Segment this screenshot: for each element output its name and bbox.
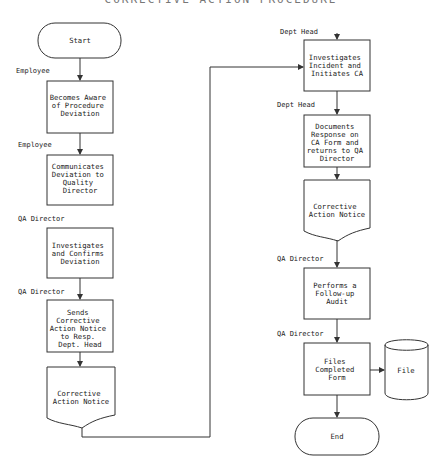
end-label: End — [331, 432, 344, 441]
process-box-investigates-incident: Investigates Incident and Initiates CA — [304, 40, 370, 91]
process-box-communicates: Communicates Deviation to Quality Direct… — [47, 155, 113, 205]
process-box-files-form: Files Completed Form — [304, 343, 370, 395]
role-label: QA Director — [277, 330, 323, 338]
file-label: File — [397, 366, 414, 375]
role-label: QA Director — [18, 288, 64, 296]
role-label: QA Director — [18, 215, 64, 223]
box-text: Corrective Action Notice — [309, 202, 365, 219]
process-box-investigates-confirms: Investigates and Confirms Deviation — [47, 228, 113, 278]
process-box-becomes-aware: Becomes Aware of Procedure Deviation — [47, 81, 113, 133]
process-box-follow-up-audit: Performs a Follow-up Audit — [304, 268, 370, 319]
box-text: Investigates Incident and Initiates CA — [309, 53, 365, 78]
document-corrective-action-notice-right: Corrective Action Notice — [304, 180, 370, 241]
start-label: Start — [69, 36, 91, 45]
role-label: Employee — [18, 141, 52, 149]
start-terminal: Start — [38, 23, 121, 58]
end-terminal: End — [295, 418, 379, 455]
role-label: Dept Head — [277, 101, 315, 109]
page-title: CORRECTIVE ACTION PROCEDURE — [105, 0, 338, 6]
role-label: QA Director — [277, 255, 323, 263]
process-box-documents-response: Documents Response on CA Form and return… — [304, 115, 370, 167]
flowchart: CORRECTIVE ACTION PROCEDURE Start Employ… — [0, 0, 443, 468]
role-label: Dept Head — [280, 28, 318, 36]
role-label: Employee — [16, 67, 50, 75]
document-corrective-action-notice-left: Corrective Action Notice — [47, 367, 115, 428]
file-storage-cylinder: File — [385, 340, 428, 400]
box-text: Corrective Action Notice — [53, 389, 109, 406]
process-box-sends-notice: Sends Corrective Action Notice to Resp. … — [47, 300, 113, 352]
